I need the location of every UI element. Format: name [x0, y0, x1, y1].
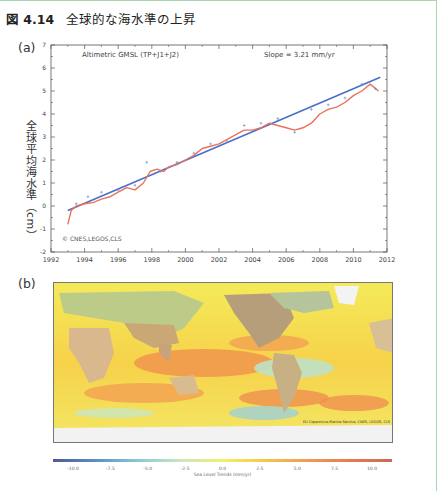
chart-credit: © CNES,LEGOS,CLS	[62, 235, 122, 242]
x-tick-label: 1994	[76, 256, 93, 264]
data-point-marker	[87, 196, 90, 199]
slope-annotation: Slope = 3.21 mm/yr	[264, 51, 335, 59]
colorbar-tick-label: -5.0	[143, 466, 152, 471]
data-point-marker	[293, 131, 296, 134]
data-point-marker	[260, 122, 263, 125]
x-tick-label: 2000	[177, 256, 194, 264]
y-tick-label: -2	[40, 248, 46, 255]
colorbar-tick-label: 7.5	[331, 466, 338, 471]
x-tick-label: 2012	[379, 256, 396, 264]
y-tick-label: 6	[42, 64, 46, 71]
data-point-marker	[209, 143, 212, 146]
x-tick-label: 2004	[244, 256, 261, 264]
colorbar-label: Sea Level Trends (mm/yr)	[194, 472, 252, 477]
x-tick-label: 1996	[110, 256, 127, 264]
colorbar-tick-label: -7.5	[106, 466, 115, 471]
data-point-marker	[100, 191, 103, 194]
plot-area	[51, 45, 387, 252]
x-tick-label: 1992	[43, 256, 60, 264]
gmsl-line	[68, 84, 379, 224]
y-tick-label: 1	[42, 179, 46, 186]
x-tick-label: 1998	[144, 256, 161, 264]
x-tick-label: 2002	[211, 256, 228, 264]
colorbar: -10.0-7.5-5.0-2.50.02.55.07.510.0Sea Lev…	[0, 455, 443, 485]
colorbar-tick-label: -2.5	[181, 466, 190, 471]
data-point-marker	[277, 117, 280, 120]
panel-b-label: (b)	[18, 276, 36, 291]
data-point-marker	[344, 97, 347, 100]
colorbar-tick-label: 0.0	[219, 466, 226, 471]
sea-level-trend-map: EU Copernicus Marine Service, CNES, LEGO…	[53, 282, 393, 443]
data-point-marker	[145, 161, 148, 164]
data-point-marker	[327, 104, 330, 107]
colorbar-tick-label: 2.5	[256, 466, 263, 471]
data-point-marker	[134, 184, 137, 187]
colorbar-tick-label: 5.0	[294, 466, 301, 471]
colorbar-tick-label: -10.0	[67, 466, 79, 471]
x-tick-label: 2008	[312, 256, 329, 264]
series-annotation: Altimetric GMSL (TP+J1+J2)	[82, 51, 179, 59]
x-tick-label: 2006	[278, 256, 295, 264]
x-tick-label: 2010	[345, 256, 362, 264]
y-tick-label: 2	[42, 156, 46, 163]
colorbar-tick-label: 10.0	[367, 466, 377, 471]
trend-line	[68, 77, 381, 210]
y-tick-label: -1	[40, 225, 46, 232]
y-tick-label: 3	[42, 133, 46, 140]
y-tick-label: 0	[42, 202, 46, 209]
y-tick-label: 7	[42, 41, 46, 48]
y-tick-label: 5	[42, 87, 46, 94]
y-tick-label: 4	[42, 110, 46, 117]
data-point-marker	[310, 108, 313, 111]
world-map-heatmap: EU Copernicus Marine Service, CNES, LEGO…	[54, 283, 393, 443]
map-credit: EU Copernicus Marine Service, CNES, LEGO…	[303, 420, 391, 424]
data-point-marker	[75, 202, 78, 205]
gmsl-line-chart: 1992199419961998200020022004200620082010…	[0, 0, 443, 270]
data-point-marker	[243, 124, 246, 127]
